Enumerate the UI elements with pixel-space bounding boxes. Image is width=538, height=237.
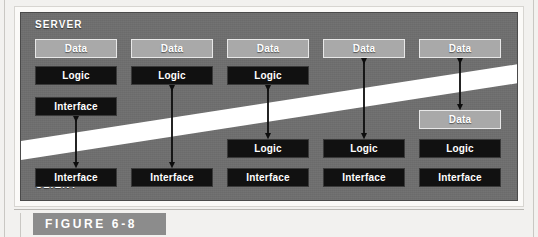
column-3-server-box-data: Data: [227, 39, 309, 58]
column-2-client-box-interface: Interface: [131, 168, 213, 187]
column-2-server-box-data: Data: [131, 39, 213, 58]
column-5-client-box-interface: Interface: [419, 168, 501, 187]
server-zone-label: SERVER: [35, 19, 83, 30]
column-3-server-box-logic: Logic: [227, 66, 309, 85]
page-rule-left: [4, 0, 5, 237]
column-1-client-box-interface: Interface: [35, 168, 117, 187]
column-5-server-box-data: Data: [419, 39, 501, 58]
column-1-server-box-logic: Logic: [35, 66, 117, 85]
figure-caption-text: FIGURE 6-8: [33, 217, 137, 231]
column-3-client-box-logic: Logic: [227, 139, 309, 158]
column-5-client-box-data: Data: [419, 110, 501, 129]
column-1-server-box-data: Data: [35, 39, 117, 58]
column-4-server-box-data: Data: [323, 39, 405, 58]
column-4-client-box-interface: Interface: [323, 168, 405, 187]
caption-divider-rule: [14, 209, 524, 210]
column-5-client-box-logic: Logic: [419, 139, 501, 158]
caption-left-rule: [20, 213, 21, 237]
column-1-server-box-interface: Interface: [35, 97, 117, 116]
page-rule-right: [533, 0, 534, 237]
column-4-client-box-logic: Logic: [323, 139, 405, 158]
column-3-client-box-interface: Interface: [227, 168, 309, 187]
column-2-server-box-logic: Logic: [131, 66, 213, 85]
figure-caption-bar: FIGURE 6-8: [33, 213, 166, 235]
figure-panel: SERVER CLIENT Data Logic Interface Inter…: [20, 12, 518, 201]
